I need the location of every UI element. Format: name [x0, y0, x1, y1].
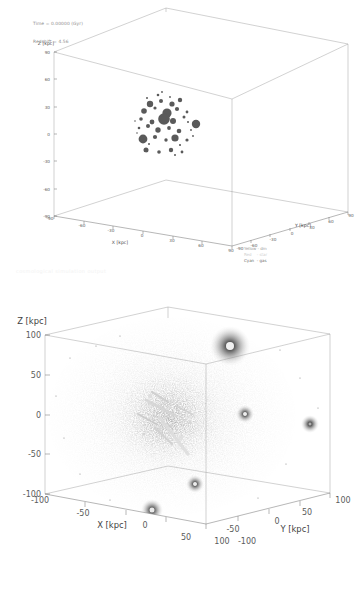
svg-text:60: 60 [198, 243, 204, 248]
simulation-info-top: Time = 0.00000 (Gyr) Redshift = 4.56 [33, 9, 83, 57]
svg-text:90: 90 [228, 248, 234, 253]
svg-text:-90: -90 [237, 246, 244, 251]
svg-text:0: 0 [274, 517, 279, 526]
svg-text:-50: -50 [76, 509, 89, 518]
svg-text:-50: -50 [28, 450, 41, 459]
svg-text:100: 100 [214, 537, 229, 546]
svg-text:0: 0 [142, 521, 147, 530]
svg-text:30: 30 [309, 225, 315, 230]
svg-text:100: 100 [335, 496, 350, 505]
svg-text:50: 50 [31, 371, 41, 380]
svg-text:-60: -60 [79, 223, 86, 228]
x-axis-top: X [kpc] -90 -60 -30 0 30 60 90 [47, 216, 234, 253]
svg-text:50: 50 [302, 508, 312, 517]
axes-box-top [54, 8, 348, 246]
plot-panel-top: Z [kpc] 90 60 30 0 -30 -60 -90 [0, 0, 364, 288]
x-axis-title-bottom: X [kpc] [97, 520, 127, 530]
dm-halo-inner [132, 388, 200, 452]
svg-text:0: 0 [141, 233, 144, 238]
svg-text:30: 30 [169, 238, 175, 243]
svg-text:-100: -100 [31, 496, 49, 505]
x-axis-title-top: X [kpc] [112, 240, 129, 245]
figure-page: Z [kpc] 90 60 30 0 -30 -60 -90 [0, 0, 364, 593]
z-axis-title-bottom: Z [kpc] [17, 316, 47, 326]
satellite-far-right [301, 415, 319, 433]
svg-text:50: 50 [181, 533, 191, 542]
legend-top: Yellow - dm Red - star Cyan - gas [244, 246, 267, 264]
svg-text:0: 0 [47, 132, 50, 137]
svg-text:30: 30 [45, 105, 51, 110]
watermark-top: cosmological simulation output [16, 268, 106, 274]
svg-text:90: 90 [348, 213, 354, 218]
plot-panel-bottom: Z [kpc] 100 50 0 -50 -100 X [kpc] [0, 288, 364, 593]
redshift-label-top: Redshift = 4.56 [33, 39, 83, 45]
svg-text:100: 100 [26, 331, 41, 340]
svg-text:-100: -100 [238, 537, 256, 546]
svg-text:-30: -30 [43, 159, 50, 164]
time-label-top: Time = 0.00000 (Gyr) [33, 21, 83, 27]
particle-cloud-top [134, 91, 200, 173]
svg-text:-50: -50 [226, 525, 239, 534]
legend-entry-gas-top: Cyan - gas [244, 258, 267, 264]
svg-text:60: 60 [328, 219, 334, 224]
svg-text:-30: -30 [270, 237, 277, 242]
svg-text:-30: -30 [108, 228, 115, 233]
y-axis-bottom: Y [kpc] -100 -50 0 50 100 [226, 493, 350, 546]
y-axis-title-bottom: Y [kpc] [279, 524, 309, 534]
svg-text:-60: -60 [43, 187, 50, 192]
svg-text:0: 0 [36, 411, 41, 420]
scatter-plot-bottom: Z [kpc] 100 50 0 -50 -100 X [kpc] [0, 288, 364, 593]
svg-text:60: 60 [45, 77, 51, 82]
simulation-info-bottom: Time = 2.09770 (Gyr) Redshift = 1.99 [14, 579, 111, 593]
svg-text:-90: -90 [47, 216, 54, 221]
svg-text:0: 0 [291, 231, 294, 236]
